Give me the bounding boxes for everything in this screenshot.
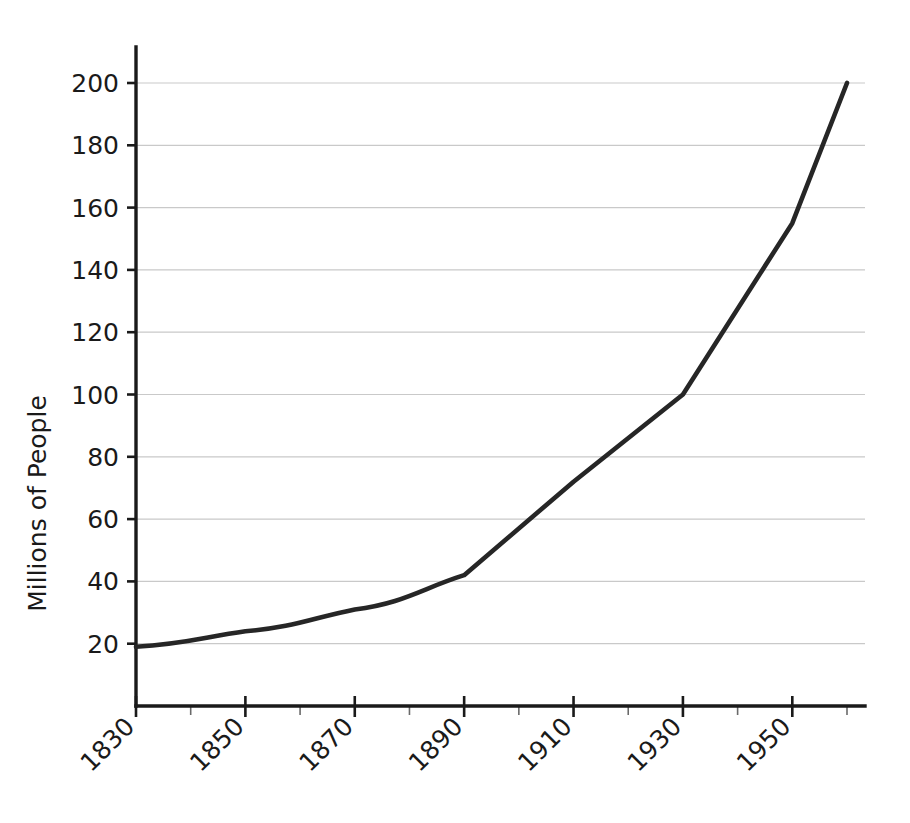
y-axis-tick-label: 120: [71, 318, 119, 347]
y-axis-tick-label: 140: [71, 256, 119, 285]
y-axis-tick-label: 40: [87, 567, 119, 596]
y-axis-tick-label: 100: [71, 381, 119, 410]
chart-canvas: 20406080100120140160180200 1830185018701…: [0, 0, 910, 823]
y-axis-tick-label: 80: [87, 443, 119, 472]
y-axis-tick-label: 200: [71, 69, 119, 98]
y-axis-tick-label: 160: [71, 194, 119, 223]
y-axis-tick-label: 20: [87, 630, 119, 659]
y-axis-tick-label: 60: [87, 505, 119, 534]
y-axis-tick-label: 180: [71, 131, 119, 160]
line-chart: 20406080100120140160180200 1830185018701…: [0, 0, 910, 823]
y-axis-title: Millions of People: [23, 395, 52, 612]
